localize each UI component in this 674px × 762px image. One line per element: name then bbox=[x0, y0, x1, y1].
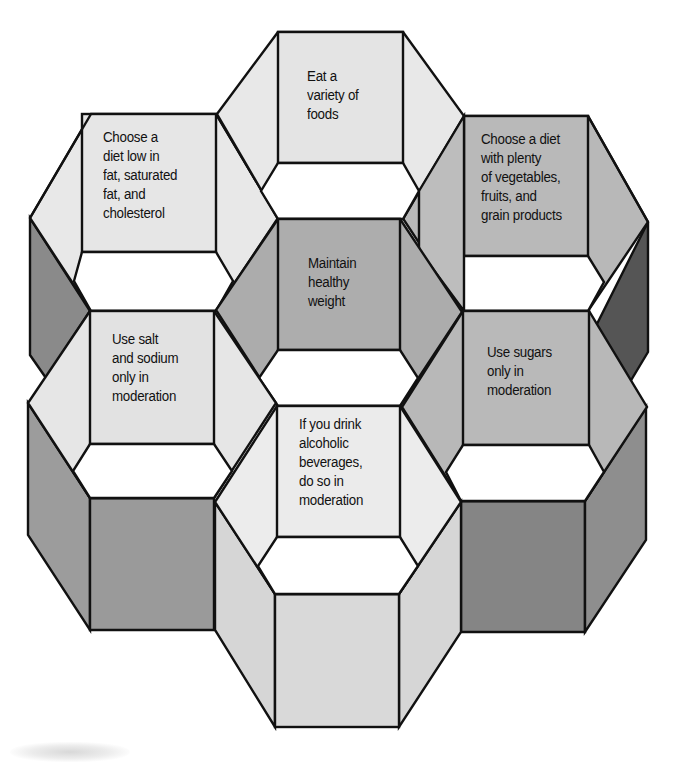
label-line: of vegetables, bbox=[481, 167, 562, 186]
label-line: Eat a bbox=[307, 66, 359, 85]
cell-label-lower-left: Use salt and sodium only in moderation bbox=[112, 329, 178, 405]
cell-label-upper-right: Choose a diet with plenty of vegetables,… bbox=[481, 129, 562, 224]
label-line: with plenty bbox=[481, 148, 562, 167]
label-line: cholesterol bbox=[103, 203, 177, 222]
label-line: foods bbox=[307, 104, 359, 123]
label-line: and sodium bbox=[112, 348, 178, 367]
label-line: Use sugars bbox=[487, 342, 552, 361]
label-line: beverages, bbox=[299, 452, 363, 471]
label-line: Choose a diet bbox=[481, 129, 562, 148]
label-line: grain products bbox=[481, 205, 562, 224]
label-line: Use salt bbox=[112, 329, 178, 348]
label-line: moderation bbox=[299, 490, 363, 509]
label-line: variety of bbox=[307, 85, 359, 104]
label-line: alcoholic bbox=[299, 433, 363, 452]
label-line: only in bbox=[112, 367, 178, 386]
label-line: healthy bbox=[308, 272, 356, 291]
cell-label-bottom: If you drink alcoholic beverages, do so … bbox=[299, 414, 363, 509]
label-line: fruits, and bbox=[481, 186, 562, 205]
drop-shadow bbox=[10, 742, 130, 762]
cell-label-top: Eat a variety of foods bbox=[307, 66, 359, 123]
cell-label-center: Maintain healthy weight bbox=[308, 253, 356, 310]
label-line: If you drink bbox=[299, 414, 363, 433]
label-line: Choose a bbox=[103, 127, 177, 146]
label-line: Maintain bbox=[308, 253, 356, 272]
label-line: only in bbox=[487, 361, 552, 380]
label-line: do so in bbox=[299, 471, 363, 490]
cell-label-upper-left: Choose a diet low in fat, saturated fat,… bbox=[103, 127, 177, 222]
label-line: fat, and bbox=[103, 184, 177, 203]
label-line: moderation bbox=[112, 386, 178, 405]
label-line: moderation bbox=[487, 380, 552, 399]
label-line: diet low in bbox=[103, 146, 177, 165]
label-line: fat, saturated bbox=[103, 165, 177, 184]
cell-label-lower-right: Use sugars only in moderation bbox=[487, 342, 552, 399]
label-line: weight bbox=[308, 291, 356, 310]
